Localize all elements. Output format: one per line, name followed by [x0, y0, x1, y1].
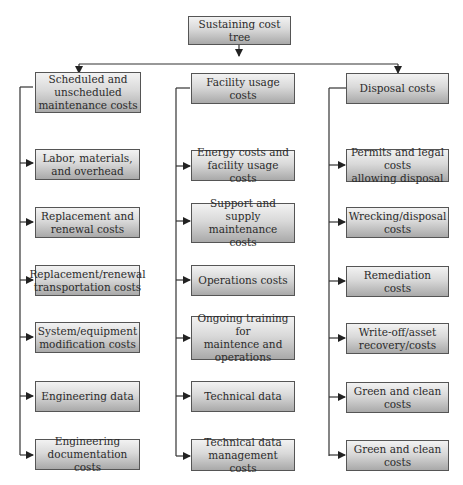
leaf-node: Operations costs: [191, 265, 295, 296]
branch-node-facility-usage: Facility usage costs: [191, 73, 295, 104]
leaf-node: Replacement and renewal costs: [35, 207, 140, 238]
root-node: Sustaining cost tree: [188, 16, 291, 45]
leaf-node: Green and clean costs: [346, 440, 449, 471]
leaf-node: System/equipment modification costs: [35, 322, 140, 353]
leaf-node: Support and supply maintenance costs: [191, 203, 295, 243]
leaf-node: Engineering documentation costs: [35, 439, 140, 470]
sustaining-cost-tree-diagram: Sustaining cost tree Scheduled and unsch…: [0, 0, 463, 485]
branch-node-scheduled-maintenance: Scheduled and unscheduled maintenance co…: [35, 72, 141, 113]
leaf-node: Green and clean costs: [346, 382, 449, 413]
leaf-node: Technical data management costs: [191, 439, 295, 471]
leaf-node: Replacement/renewal transportation costs: [35, 265, 140, 296]
leaf-node: Engineering data: [35, 381, 140, 412]
leaf-node: Permits and legal costs allowing disposa…: [346, 149, 449, 182]
leaf-node: Energy costs and facility usage costs: [191, 150, 295, 181]
leaf-node: Ongoing training for maintence and opera…: [191, 316, 295, 360]
branch-node-disposal: Disposal costs: [346, 73, 449, 104]
leaf-node: Wrecking/disposal costs: [346, 207, 449, 238]
leaf-node: Technical data: [191, 381, 295, 412]
leaf-node: Write-off/asset recovery/costs: [346, 323, 449, 354]
leaf-node: Remediation costs: [346, 266, 449, 297]
leaf-node: Labor, materials, and overhead: [35, 149, 140, 180]
